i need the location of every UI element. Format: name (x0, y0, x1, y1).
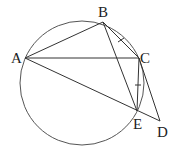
label-d: D (157, 124, 168, 140)
label-c: C (140, 50, 150, 66)
geometry-diagram: A B C E D (0, 0, 180, 151)
segment-be (103, 22, 137, 111)
circle (20, 21, 144, 145)
segment-cd (139, 58, 160, 121)
label-a: A (11, 50, 22, 66)
label-b: B (98, 4, 108, 20)
segment-ad (25, 58, 160, 121)
label-e: E (133, 116, 142, 132)
